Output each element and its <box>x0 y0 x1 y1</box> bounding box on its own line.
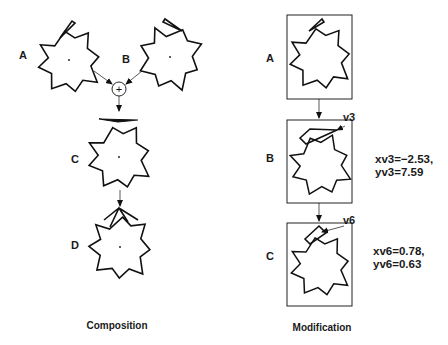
label-b: B <box>266 152 274 164</box>
value-xv3: xv3=−2.53, <box>375 153 433 165</box>
modified-wedge-icon <box>305 226 326 244</box>
center-dot <box>169 56 171 58</box>
svg-text:+: + <box>116 83 122 95</box>
composition-caption: Composition <box>86 320 147 331</box>
center-dot <box>118 156 120 158</box>
modification-panel-b: v3 B xv3=−2.53, yv3=7.59 <box>266 111 433 203</box>
modification-group: A v3 B xv3=−2.53, yv3=7.59 v6 C <box>266 15 433 333</box>
label-d: D <box>71 239 79 251</box>
composition-shape-c: C <box>71 121 155 193</box>
combined-wedge-icon <box>99 119 138 122</box>
arrow-b-to-plus <box>126 71 142 84</box>
label-a: A <box>266 52 274 64</box>
value-xv6: xv6=0.78, <box>373 245 424 257</box>
wedge-marker-icon <box>60 21 75 38</box>
diagram-canvas: A B + C <box>0 0 448 345</box>
wedge-marker-icon <box>163 19 182 31</box>
value-yv3: yv3=7.59 <box>375 166 423 178</box>
composition-shape-d: D <box>71 208 153 280</box>
modification-panel-a: A <box>266 15 353 99</box>
label-c: C <box>71 153 79 165</box>
merged-wedge-icon <box>104 208 138 227</box>
plus-operator-icon: + <box>112 82 126 96</box>
modification-caption: Modification <box>293 322 352 333</box>
vertex-pointer <box>337 126 345 130</box>
center-dot <box>68 59 70 61</box>
center-dot <box>119 246 121 248</box>
composition-group: A B + C <box>19 17 210 331</box>
composition-shape-b: B <box>122 17 210 98</box>
value-yv6: yv6=0.63 <box>373 258 421 270</box>
label-c: C <box>266 250 274 262</box>
label-a: A <box>19 49 27 61</box>
panel-frame <box>287 223 352 306</box>
composition-shape-a: A <box>19 21 103 96</box>
label-b: B <box>122 53 130 65</box>
modification-panel-c: v6 C xv6=0.78, yv6=0.63 <box>266 214 424 306</box>
vertex-label-v6: v6 <box>343 214 355 226</box>
vertex-pointer <box>322 226 344 232</box>
vertex-label-v3: v3 <box>343 111 355 123</box>
